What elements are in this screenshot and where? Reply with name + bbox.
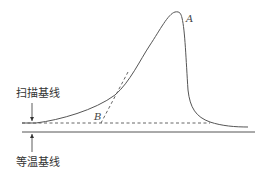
isothermal-baseline-label: 等温基线: [16, 157, 60, 168]
scan-baseline-label: 扫描基线: [16, 88, 60, 99]
dsc-peak-curve: [36, 12, 248, 127]
point-b-label: B: [94, 112, 101, 122]
point-a-label: A: [186, 14, 193, 24]
arrow-up-icon: [30, 134, 34, 138]
arrow-down-icon: [30, 117, 34, 121]
tangent-line: [101, 72, 128, 123]
